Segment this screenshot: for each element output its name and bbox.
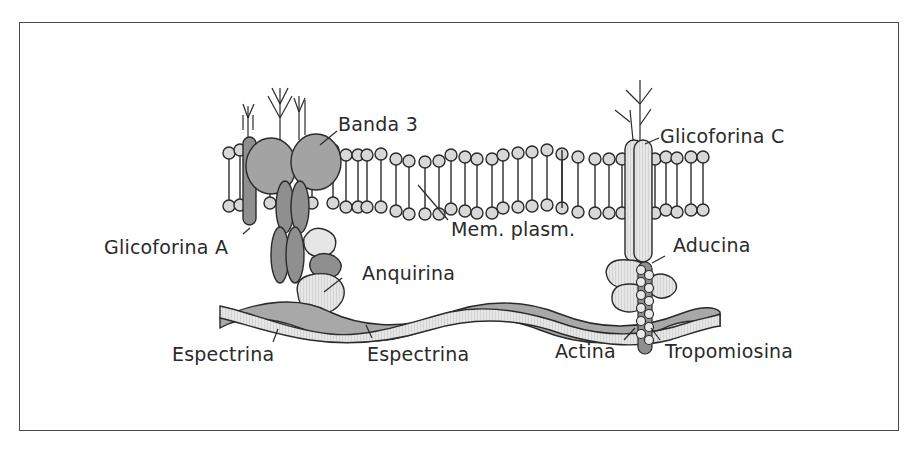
ankyrin xyxy=(297,228,344,313)
label-banda-3: Banda 3 xyxy=(338,115,418,134)
label-actina: Actina xyxy=(555,342,616,361)
label-glicoforina-a: Glicoforina A xyxy=(104,238,228,257)
label-mem-plasm: Mem. plasm. xyxy=(451,220,575,239)
label-espectrina-1: Espectrina xyxy=(172,345,274,364)
label-espectrina-2: Espectrina xyxy=(367,345,469,364)
label-aducina: Aducina xyxy=(673,236,751,255)
label-anquirina: Anquirina xyxy=(362,264,455,283)
actin-filament xyxy=(637,262,654,354)
glycophorin-c xyxy=(615,80,652,262)
label-tropomiosina: Tropomiosina xyxy=(665,342,793,361)
label-glicoforina-c: Glicoforina C xyxy=(660,127,784,146)
